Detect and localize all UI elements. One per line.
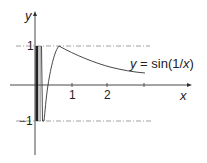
- curve-label: y = sin(1/x): [130, 57, 194, 70]
- x-tick-label-1: 1: [69, 89, 76, 101]
- x-tick-label-2: 2: [104, 89, 111, 101]
- x-axis-label: x: [180, 89, 187, 102]
- y-tick-label-pos: 1: [27, 40, 34, 52]
- x-axis-arrow-icon: [187, 83, 192, 87]
- curve-label-close: ): [190, 56, 194, 71]
- function-plot: [0, 0, 207, 163]
- y-tick-label-neg: −1: [19, 115, 33, 127]
- oscillation-band: [36, 46, 39, 121]
- y-axis-label: y: [25, 9, 32, 22]
- curve-label-rhs: = sin(1/: [137, 56, 184, 71]
- y-axis-arrow-icon: [33, 11, 37, 16]
